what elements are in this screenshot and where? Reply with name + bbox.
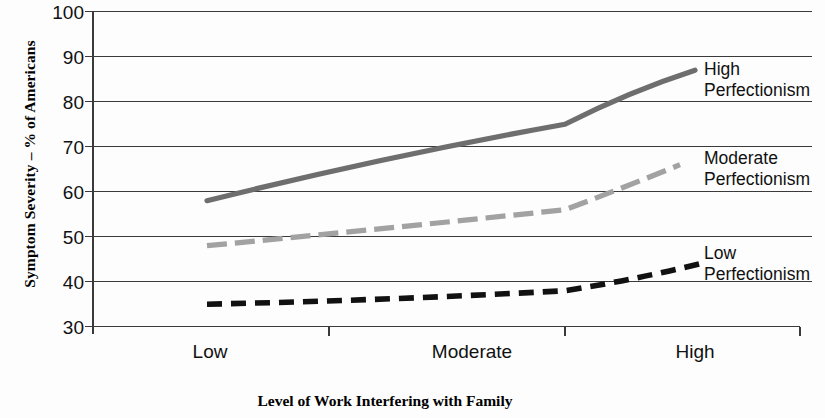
series-label-line2: Perfectionism	[704, 80, 810, 101]
series-label-line2: Perfectionism	[704, 264, 810, 285]
series-label-low-perfectionism: Low Perfectionism	[704, 243, 810, 284]
series-label-moderate-perfectionism: Moderate Perfectionism	[704, 148, 810, 189]
x-axis-title: Level of Work Interfering with Family	[0, 392, 770, 410]
chart-figure: Symptom Severity – % of Americans 100 90…	[0, 0, 825, 418]
x-axis-ticks	[329, 327, 800, 336]
x-tick-label-low: Low	[170, 341, 250, 363]
series-label-line1: Moderate	[704, 148, 810, 169]
x-tick-label-moderate: Moderate	[412, 341, 532, 363]
series-label-line1: High	[704, 59, 810, 80]
series-label-high-perfectionism: High Perfectionism	[704, 59, 810, 100]
series-line-high-perfectionism	[207, 70, 695, 201]
series-label-line1: Low	[704, 243, 810, 264]
y-axis-ticks	[85, 12, 93, 327]
series-line-moderate-perfectionism	[207, 165, 680, 246]
x-tick-label-high: High	[650, 341, 740, 363]
series-label-line2: Perfectionism	[704, 169, 810, 190]
series-line-low-perfectionism	[207, 264, 700, 305]
